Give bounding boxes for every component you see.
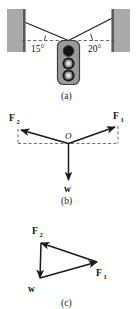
bottom-lamp-center (67, 74, 71, 78)
force-1-label-text: F (96, 268, 102, 278)
right-wall (111, 9, 130, 52)
force-1-vector (40, 262, 97, 278)
panel-c-vector-triangle: F 2 F 1 w (c) (0, 206, 137, 309)
panel-a-traffic-light-scene: 15° 20° (a) (0, 0, 137, 104)
force-1-label-sub: 1 (104, 273, 107, 280)
left-wall (7, 9, 26, 52)
middle-lamp-center (67, 62, 71, 66)
force-2-label-sub: 2 (17, 118, 20, 125)
top-lamp (63, 46, 74, 57)
force-2-label-sub: 2 (40, 231, 43, 238)
weight-label: w (64, 184, 71, 194)
force-1-label-sub: 1 (121, 116, 124, 123)
left-angle-arc (45, 36, 46, 41)
panel-b-caption: (b) (61, 196, 72, 206)
force-2-vector (21, 130, 69, 144)
force-2-label: F 2 (32, 226, 43, 238)
force-2-label: F 2 (9, 113, 20, 125)
origin-point-label: O (65, 131, 72, 141)
left-wall-body (7, 9, 25, 52)
panel-b-free-body-diagram: F 2 F 1 O w (b) (0, 104, 137, 206)
force-2-label-text: F (9, 113, 15, 123)
force-1-label: F 1 (96, 268, 107, 280)
left-angle-label: 15° (31, 44, 45, 54)
force-1-vector (69, 127, 116, 144)
force-2-label-text: F (32, 226, 38, 236)
right-cable (69, 19, 112, 41)
left-wall-edge (23, 9, 26, 52)
right-wall-body (112, 9, 130, 52)
right-angle-label: 20° (88, 44, 102, 54)
physics-figure: 15° 20° (a) (0, 0, 137, 309)
traffic-light (58, 41, 80, 85)
weight-vector (40, 243, 41, 278)
right-angle-arc (91, 34, 93, 41)
panel-a-caption: (a) (61, 91, 72, 102)
weight-label: w (28, 284, 35, 294)
force-1-label: F 1 (113, 111, 124, 123)
force-2-vector (41, 243, 97, 262)
panel-c-caption: (c) (61, 298, 72, 309)
left-cable (26, 23, 69, 41)
right-wall-edge (111, 9, 114, 52)
force-1-label-text: F (113, 111, 119, 121)
